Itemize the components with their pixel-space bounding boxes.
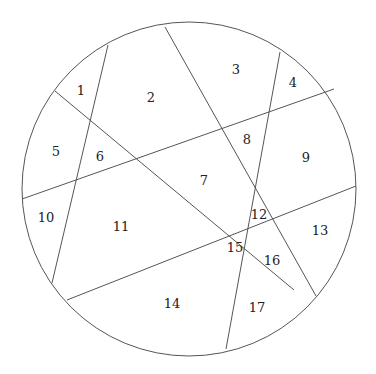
region-labels: 1234567891011121314151617 [38, 62, 329, 315]
chord-line-d [55, 91, 294, 290]
region-label-17: 17 [249, 300, 266, 315]
region-label-15: 15 [227, 240, 244, 255]
region-label-8: 8 [243, 132, 251, 147]
outer-circle [22, 22, 356, 356]
region-label-9: 9 [302, 150, 310, 165]
region-label-1: 1 [77, 83, 85, 98]
region-label-7: 7 [200, 173, 208, 188]
chord-lines [22, 27, 356, 349]
region-label-2: 2 [147, 90, 155, 105]
region-label-5: 5 [52, 144, 60, 159]
region-label-14: 14 [164, 296, 181, 311]
region-label-12: 12 [251, 207, 268, 222]
region-label-10: 10 [38, 210, 55, 225]
region-label-13: 13 [312, 223, 329, 238]
circle-partition-diagram: 1234567891011121314151617 [0, 0, 376, 374]
chord-line-b [165, 27, 316, 296]
region-label-6: 6 [96, 149, 104, 164]
region-label-4: 4 [289, 75, 297, 90]
chord-line-e [22, 89, 334, 199]
chord-line-a [52, 45, 108, 283]
region-label-16: 16 [264, 253, 281, 268]
region-label-3: 3 [232, 62, 240, 77]
chord-line-f [67, 186, 356, 300]
region-label-11: 11 [113, 219, 130, 234]
